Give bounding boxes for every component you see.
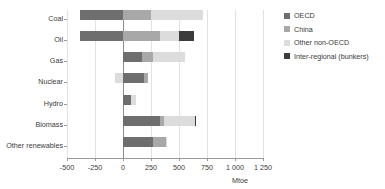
legend-label: Inter-regional (bunkers)	[294, 52, 369, 61]
bar-segment	[115, 73, 123, 83]
bar-segment	[123, 52, 142, 62]
bar-row	[67, 137, 263, 156]
bar-segment	[123, 137, 153, 147]
bar-segment	[123, 116, 160, 126]
legend-label: China	[294, 25, 313, 34]
category-label: Oil	[3, 35, 63, 45]
bar-segment	[123, 95, 131, 105]
legend-item-inter-regional-bunkers: Inter-regional (bunkers)	[284, 50, 383, 64]
legend-label: OECD	[294, 11, 315, 20]
y-tick	[64, 82, 67, 83]
legend-item-other-non-oecd: Other non-OECD	[284, 36, 383, 50]
legend-item-oecd: OECD	[284, 9, 383, 23]
y-tick	[64, 104, 67, 105]
stacked-bar-chart: Coal Oil Gas Nuclear Hydro Biomass Other…	[0, 0, 385, 189]
bar-row	[67, 10, 263, 29]
bar-segment	[80, 10, 123, 20]
legend: OECD China Other non-OECD Inter-regional…	[284, 9, 383, 63]
bar-segment	[123, 73, 144, 83]
legend-swatch-icon	[284, 40, 290, 46]
x-tick	[207, 158, 208, 161]
plot-area	[67, 10, 263, 158]
bar-segment	[164, 116, 194, 126]
legend-swatch-icon	[284, 53, 290, 59]
bar-segment	[144, 73, 147, 83]
bar-row	[67, 52, 263, 71]
category-label: Nuclear	[3, 77, 63, 87]
bar-row	[67, 73, 263, 92]
axis-unit-label: Mtoe	[232, 176, 248, 185]
x-tick	[235, 158, 236, 161]
y-tick	[64, 146, 67, 147]
bar-row	[67, 116, 263, 135]
category-label: Coal	[3, 14, 63, 24]
bar-segment	[195, 116, 197, 126]
legend-label: Other non-OECD	[294, 38, 349, 47]
legend-item-china: China	[284, 23, 383, 37]
gridline	[263, 10, 264, 158]
legend-swatch-icon	[284, 13, 290, 19]
bar-row	[67, 95, 263, 114]
y-tick	[64, 125, 67, 126]
y-tick	[64, 19, 67, 20]
y-tick	[64, 61, 67, 62]
bar-row	[67, 31, 263, 50]
x-tick	[179, 158, 180, 161]
y-tick	[64, 40, 67, 41]
x-tick	[67, 158, 68, 161]
category-label: Other renewables	[3, 141, 63, 151]
bar-segment	[131, 95, 137, 105]
bar-segment	[80, 31, 123, 41]
category-label: Biomass	[3, 120, 63, 130]
legend-swatch-icon	[284, 26, 290, 32]
category-label: Gas	[3, 56, 63, 66]
x-axis-line	[67, 158, 263, 159]
bar-segment	[153, 52, 185, 62]
bar-segment	[166, 137, 167, 147]
bar-segment	[123, 10, 151, 20]
x-tick	[123, 158, 124, 161]
category-label: Hydro	[3, 99, 63, 109]
category-axis: Coal Oil Gas Nuclear Hydro Biomass Other…	[0, 10, 63, 158]
bar-segment	[160, 31, 179, 41]
bar-segment	[142, 52, 153, 62]
x-tick-label: 1 250	[243, 163, 283, 172]
bar-segment	[179, 31, 194, 41]
x-tick	[95, 158, 96, 161]
x-tick	[263, 158, 264, 161]
bar-segment	[151, 10, 203, 20]
bar-segment	[153, 137, 166, 147]
x-tick	[151, 158, 152, 161]
bar-segment	[123, 31, 160, 41]
